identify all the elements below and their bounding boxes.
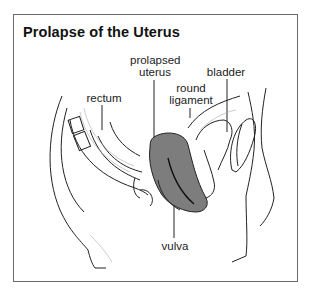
prolapsed-uterus: [150, 133, 208, 212]
anatomy-illustration: [0, 0, 313, 297]
back-outline: [50, 96, 106, 268]
